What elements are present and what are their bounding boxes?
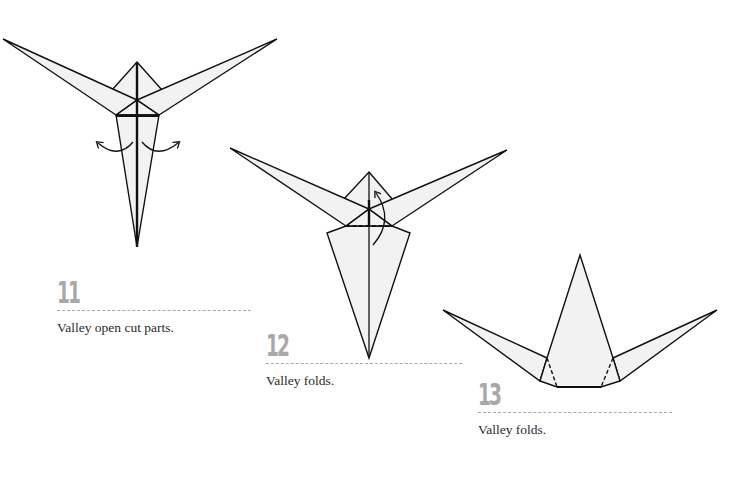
step-number: 11 (57, 278, 177, 308)
step-11: 11 Valley open cut parts. (57, 278, 251, 336)
step-number: 12 (266, 331, 388, 361)
step-12: 12 Valley folds. (266, 331, 462, 389)
step-caption: Valley open cut parts. (57, 320, 251, 336)
dashed-divider (266, 363, 462, 364)
body (540, 255, 620, 387)
right-wing (613, 310, 717, 381)
left-wing (3, 39, 137, 115)
left-wing (230, 148, 369, 226)
step-caption: Valley folds. (478, 422, 672, 438)
step-13: 13 Valley folds. (478, 380, 672, 438)
dashed-divider (478, 412, 672, 413)
step-11-diagram (3, 39, 277, 247)
dashed-divider (57, 310, 251, 311)
right-wing (369, 150, 507, 226)
right-wing (137, 39, 277, 115)
step-caption: Valley folds. (266, 373, 462, 389)
step-number: 13 (478, 380, 598, 410)
step-13-diagram (443, 255, 717, 387)
